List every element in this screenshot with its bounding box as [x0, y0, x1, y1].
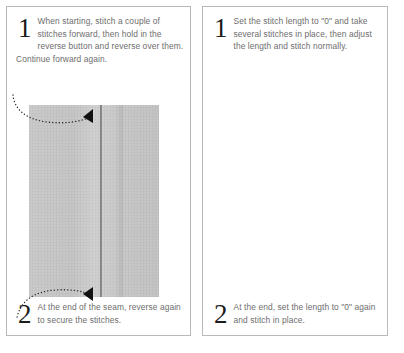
step-text: At the end, set the length to "0" again …: [212, 301, 381, 326]
seam-line: [100, 105, 102, 297]
step-text: At the end of the seam, reverse again to…: [16, 301, 184, 326]
step-1-block: 1 Set the stitch length to "0" and take …: [212, 15, 381, 53]
step-number: 2: [214, 302, 228, 327]
step-number: 2: [18, 302, 32, 327]
step-2-block: 2 At the end, set the length to "0" agai…: [212, 301, 381, 327]
step-text: Set the stitch length to "0" and take se…: [212, 15, 381, 53]
panel-zero-length-stitch: 1 Set the stitch length to "0" and take …: [202, 6, 388, 336]
panel-reverse-stitch: 1 When starting, stitch a couple of stit…: [6, 6, 191, 336]
fabric-fold-shadow: [115, 105, 123, 297]
instruction-sheet: 1 When starting, stitch a couple of stit…: [0, 0, 404, 353]
step-1-block: 1 When starting, stitch a couple of stit…: [16, 15, 184, 65]
step-text: When starting, stitch a couple of stitch…: [16, 15, 184, 65]
step-2-block: 2 At the end of the seam, reverse again …: [16, 301, 184, 327]
step-number: 1: [214, 16, 228, 41]
fabric-seam-photo-left: [29, 105, 159, 297]
step-number: 1: [18, 16, 32, 41]
